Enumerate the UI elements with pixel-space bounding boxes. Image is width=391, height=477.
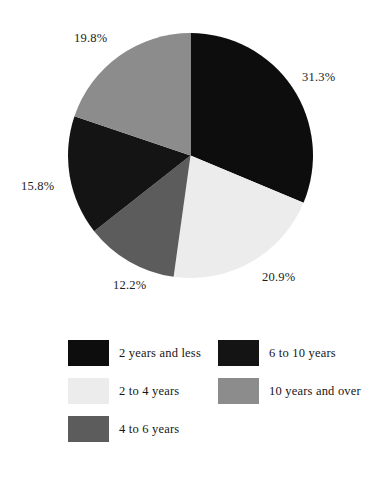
legend-item-2-years-and-less: 2 years and less (68, 340, 201, 366)
legend-label: 4 to 6 years (119, 422, 179, 437)
legend-label: 2 years and less (119, 346, 201, 361)
legend-swatch-icon (218, 340, 259, 366)
pie-graphic (68, 33, 313, 278)
legend-item-10-years-and-over: 10 years and over (218, 378, 361, 404)
slice-value-label-2-years-and-less: 31.3% (302, 70, 335, 85)
chart-legend: 2 years and less 2 to 4 years 4 to 6 yea… (0, 330, 391, 477)
pie-chart: 31.3% 20.9% 12.2% 15.8% 19.8% (0, 0, 391, 320)
slice-value-label-4-to-6-years: 12.2% (113, 278, 146, 293)
legend-label: 2 to 4 years (119, 384, 179, 399)
legend-item-6-to-10-years: 6 to 10 years (218, 340, 336, 366)
legend-item-2-to-4-years: 2 to 4 years (68, 378, 179, 404)
slice-value-label-2-to-4-years: 20.9% (262, 270, 295, 285)
legend-label: 10 years and over (269, 384, 361, 399)
legend-swatch-icon (68, 378, 109, 404)
legend-label: 6 to 10 years (269, 346, 336, 361)
slice-value-label-10-years-and-over: 19.8% (74, 31, 107, 46)
slice-value-label-6-to-10-years: 15.8% (21, 179, 54, 194)
legend-swatch-icon (68, 416, 109, 442)
legend-swatch-icon (68, 340, 109, 366)
legend-item-4-to-6-years: 4 to 6 years (68, 416, 179, 442)
pie-slice-group (68, 33, 313, 278)
legend-swatch-icon (218, 378, 259, 404)
